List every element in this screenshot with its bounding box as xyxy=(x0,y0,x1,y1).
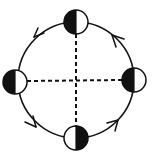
body-bottom xyxy=(64,126,88,150)
orbit-diagram xyxy=(0,0,153,161)
body-left xyxy=(3,70,27,94)
dark-half-left xyxy=(3,70,15,94)
horizontal-dashed-axis xyxy=(27,80,122,81)
dark-half-left xyxy=(64,10,76,34)
body-right xyxy=(122,68,146,92)
arrow-lower-left-icon xyxy=(25,116,36,127)
body-top xyxy=(64,10,88,34)
dark-half-right xyxy=(76,126,88,150)
orbit-diagram-canvas xyxy=(0,0,153,161)
dark-half-left xyxy=(122,68,134,92)
